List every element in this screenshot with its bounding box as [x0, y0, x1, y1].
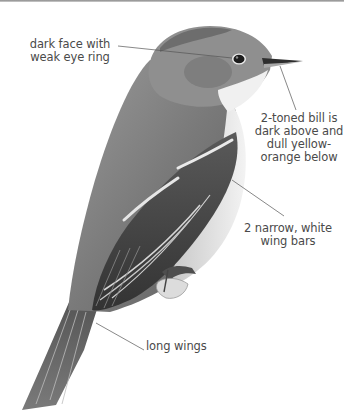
annotation-bill: 2-toned bill is dark above and dull yell…	[254, 112, 344, 164]
tail	[22, 300, 100, 410]
illustration-frame: dark face with weak eye ring 2-toned bil…	[0, 0, 344, 413]
annotation-long-wings: long wings	[146, 340, 226, 353]
annotation-face: dark face with weak eye ring	[24, 38, 116, 64]
annotation-long-wings-line1: long wings	[146, 340, 226, 353]
annotation-wingbars: 2 narrow, white wing bars	[238, 222, 338, 248]
bill	[262, 58, 303, 68]
annotation-bill-line4: orange below	[254, 151, 344, 164]
annotation-wingbars-line2: wing bars	[238, 235, 338, 248]
leader-bill	[280, 66, 296, 110]
leader-long-wings	[96, 323, 144, 350]
annotation-face-line2: weak eye ring	[24, 51, 116, 64]
